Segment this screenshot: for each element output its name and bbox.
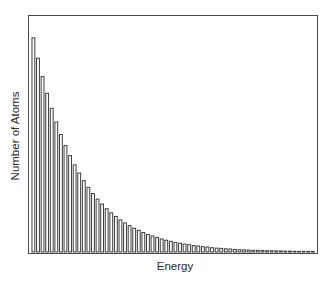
bar [293, 251, 296, 252]
bar [114, 216, 117, 252]
bar [82, 181, 85, 252]
bar [188, 245, 191, 252]
bar [124, 223, 127, 252]
bar [96, 199, 99, 252]
bar [270, 251, 273, 252]
bar [298, 251, 301, 252]
bar [234, 249, 237, 252]
bar [311, 251, 314, 252]
bar [59, 134, 62, 252]
bar [252, 250, 255, 252]
bar [307, 251, 310, 252]
bar [92, 194, 95, 252]
bar [32, 38, 35, 252]
bar [73, 165, 76, 252]
bar [78, 173, 81, 252]
x-axis-label: Energy [157, 260, 193, 272]
bar [243, 250, 246, 252]
bar [201, 247, 204, 252]
bar [174, 242, 177, 252]
bar [133, 228, 136, 252]
bar [46, 93, 49, 252]
bar [110, 213, 113, 252]
bar [160, 239, 163, 252]
bar [275, 251, 278, 252]
y-axis-label: Number of Atoms [9, 92, 21, 181]
bar [197, 246, 200, 252]
bar [165, 240, 168, 252]
bar [284, 251, 287, 252]
bar [279, 251, 282, 252]
bar [105, 209, 108, 252]
bar [211, 248, 214, 252]
bar [179, 243, 182, 252]
bar [229, 249, 232, 252]
bar [247, 250, 250, 252]
bar [128, 226, 131, 252]
bar [256, 250, 259, 252]
bar [87, 187, 90, 252]
bar [37, 58, 40, 252]
bar-series [29, 16, 317, 253]
bar [142, 233, 145, 252]
bar [192, 246, 195, 252]
bar [215, 248, 218, 252]
bar [220, 248, 223, 252]
bar [55, 122, 58, 252]
bar [156, 237, 159, 252]
bar [69, 156, 72, 252]
bar [137, 230, 140, 252]
bar [302, 251, 305, 252]
bar [238, 250, 241, 252]
bar [206, 247, 209, 252]
bar [169, 241, 172, 252]
chart-plot-area [28, 15, 318, 254]
bar [147, 234, 150, 252]
bar [261, 251, 264, 252]
bar [183, 244, 186, 252]
bar [119, 220, 122, 252]
bar [151, 236, 154, 252]
bar [266, 251, 269, 252]
bar [224, 249, 227, 252]
bar [50, 108, 53, 252]
bar [64, 146, 67, 252]
bar [41, 77, 44, 252]
bar [101, 204, 104, 252]
bar [289, 251, 292, 252]
